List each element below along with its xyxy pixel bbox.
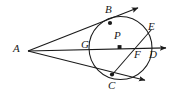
center-label-p: P [114,30,121,41]
point-p-dot [118,45,122,49]
ray-a-d [28,48,166,51]
geometry-diagram: A B C D E F G P [0,0,173,96]
ray-a-c [28,51,145,80]
point-b-dot [108,21,112,25]
vertex-label-a: A [13,43,20,54]
point-c-dot [110,72,114,76]
vertex-label-g: G [81,39,89,50]
vertex-label-d: D [149,49,157,60]
vertex-label-c: C [108,80,115,91]
vertex-label-b: B [105,4,112,15]
vertex-label-f: F [134,49,141,60]
vertex-label-e: E [148,21,155,32]
